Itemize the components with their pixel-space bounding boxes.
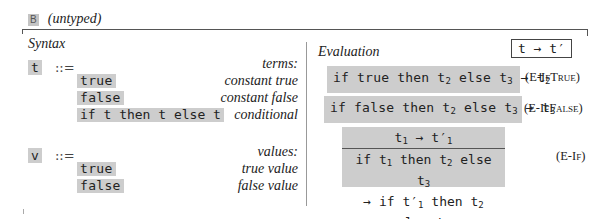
- rule-e-iffalse-body: if false then t2 else t3 → t3: [324, 96, 522, 123]
- rule-e-iftrue-body: if true then t2 else t3 → t2: [327, 66, 520, 93]
- column-divider: [306, 42, 307, 206]
- terms-category: terms:: [138, 56, 298, 72]
- judgement-box: t → t′: [511, 39, 572, 58]
- values-symbol-row: v ::=: [28, 145, 75, 164]
- term-false-desc: constant false: [138, 90, 298, 106]
- evaluation-title: Evaluation: [318, 44, 379, 60]
- term-false: false: [77, 91, 124, 105]
- figure-header: B (untyped): [28, 8, 101, 27]
- values-def-op: ::=: [55, 148, 75, 163]
- term-conditional-desc: conditional: [138, 107, 298, 123]
- terms-symbol-row: t ::=: [28, 57, 75, 76]
- term-true-desc: constant true: [138, 73, 298, 89]
- values-symbol: v: [28, 148, 42, 163]
- bottom-left-tick: [23, 209, 24, 214]
- term-true: true: [77, 74, 116, 88]
- rule-e-iftrue-name: (E-IfTrue): [525, 70, 580, 85]
- terms-symbol: t: [28, 60, 42, 75]
- rule-e-if-conclusion: if t1 then t2 else t3 → if t′1 then t2 e…: [342, 149, 505, 219]
- rule-e-iffalse-name: (E-IfFalse): [524, 101, 583, 116]
- figure-title: (untyped): [48, 11, 102, 26]
- value-true-desc: true value: [138, 161, 298, 177]
- values-category: values:: [138, 144, 298, 160]
- value-true: true: [77, 162, 116, 176]
- rule-e-if-body: t1 → t′1 if t1 then t2 else t3 → if t′1 …: [342, 127, 505, 187]
- value-false: false: [77, 179, 124, 193]
- value-false-desc: false value: [138, 178, 298, 194]
- rule-e-if-premise: t1 → t′1: [342, 127, 505, 149]
- top-rule-left-tick: [22, 29, 23, 34]
- rule-e-if-name: (E-If): [556, 149, 585, 164]
- top-rule-right-tick: [587, 29, 588, 36]
- language-badge: B: [28, 14, 39, 26]
- terms-def-op: ::=: [55, 60, 75, 75]
- syntax-title: Syntax: [28, 36, 65, 52]
- top-rule: [22, 29, 588, 30]
